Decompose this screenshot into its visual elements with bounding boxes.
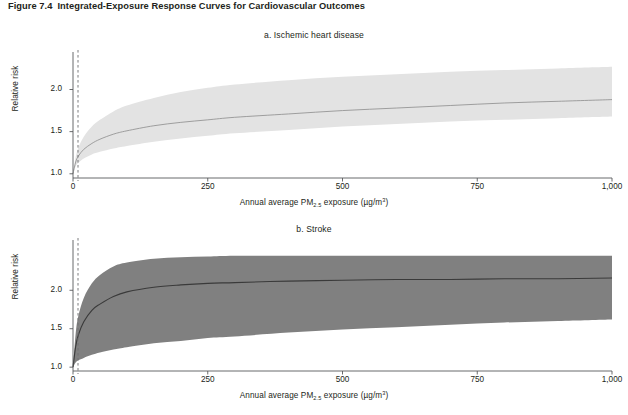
confidence-band: [73, 256, 612, 368]
plot-svg-stroke: [0, 216, 628, 415]
x-axis-tick-label: 1,000: [592, 375, 628, 384]
x-axis-tick-label: 750: [457, 375, 497, 384]
x-axis-label-b: Annual average PM2.5 exposure (µg/m3): [0, 391, 628, 400]
figure-title: Figure 7.4Integrated-Exposure Response C…: [8, 0, 622, 14]
chart-panel-ischemic-heart-disease: a. Ischemic heart disease Relative risk …: [0, 22, 628, 214]
x-axis-label-b-superscript: 3: [382, 390, 385, 396]
x-axis-label-b-prefix: Annual average PM: [240, 391, 314, 400]
y-axis-tick-label: 1.0: [36, 362, 62, 371]
y-axis-tick-label: 2.0: [36, 84, 62, 93]
x-axis-label-a-prefix: Annual average PM: [240, 198, 314, 207]
y-axis-label-b: Relative risk: [11, 254, 20, 300]
x-axis-label-a-suffix: ): [385, 198, 388, 207]
x-axis-tick-label: 500: [323, 182, 363, 191]
y-axis-tick-label: 2.0: [36, 285, 62, 294]
x-axis-label-a-mid: exposure (µg/m: [321, 198, 382, 207]
confidence-band: [73, 67, 612, 174]
y-axis-label-a: Relative risk: [11, 66, 20, 112]
x-axis-tick-label: 1,000: [592, 182, 628, 191]
x-axis-tick-label: 250: [188, 182, 228, 191]
y-axis-tick-label: 1.5: [36, 126, 62, 135]
x-axis-tick-label: 250: [188, 375, 228, 384]
x-axis-label-b-suffix: ): [385, 391, 388, 400]
x-axis-label-a-superscript: 3: [382, 197, 385, 203]
x-axis-tick-label: 0: [53, 375, 93, 384]
y-axis-tick-label: 1.0: [36, 168, 62, 177]
plot-area-b: [0, 216, 628, 415]
plot-svg-ischemic-heart-disease: [0, 22, 628, 214]
x-axis-label-a: Annual average PM2.5 exposure (µg/m3): [0, 198, 628, 207]
x-axis-label-a-subscript: 2.5: [313, 202, 321, 208]
y-axis-tick-label: 1.5: [36, 323, 62, 332]
x-axis-tick-label: 0: [53, 182, 93, 191]
chart-panel-stroke: b. Stroke Relative risk Annual average P…: [0, 216, 628, 415]
figure-title-text: Integrated-Exposure Response Curves for …: [57, 1, 364, 11]
x-axis-label-b-subscript: 2.5: [313, 395, 321, 401]
figure-number: Figure 7.4: [8, 1, 52, 11]
plot-area-a: [0, 22, 628, 214]
x-axis-tick-label: 500: [323, 375, 363, 384]
x-axis-label-b-mid: exposure (µg/m: [321, 391, 382, 400]
x-axis-tick-label: 750: [457, 182, 497, 191]
